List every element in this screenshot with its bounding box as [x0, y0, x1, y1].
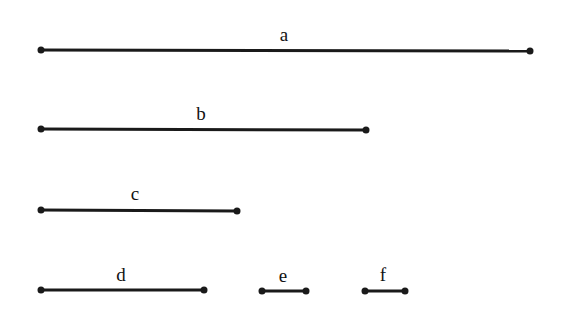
segment-a: a — [38, 24, 534, 55]
segment-c-label: c — [131, 183, 139, 204]
segment-a-label: a — [280, 24, 289, 45]
segment-b-label: b — [196, 103, 206, 124]
segment-f-label: f — [380, 264, 387, 285]
segment-b: b — [38, 103, 370, 134]
segment-c: c — [38, 183, 241, 215]
segment-e-label: e — [279, 265, 287, 286]
segment-f-start-point — [362, 288, 369, 295]
segment-c-end-point — [234, 208, 241, 215]
segment-e-start-point — [259, 288, 266, 295]
line-segments-diagram: a b c d e f — [0, 0, 564, 324]
segment-d-start-point — [38, 287, 45, 294]
segment-e: e — [259, 265, 310, 295]
segment-d-end-point — [201, 287, 208, 294]
segment-f: f — [362, 264, 409, 295]
segment-d-label: d — [116, 264, 126, 285]
segment-f-end-point — [402, 288, 409, 295]
segment-c-start-point — [38, 207, 45, 214]
segment-b-end-point — [363, 127, 370, 134]
segment-b-line — [41, 129, 366, 130]
segment-a-end-point — [527, 48, 534, 55]
segment-e-end-point — [303, 288, 310, 295]
segment-d: d — [38, 264, 208, 294]
segment-c-line — [41, 210, 237, 211]
segment-a-line — [41, 50, 530, 51]
segment-b-start-point — [38, 126, 45, 133]
segment-a-start-point — [38, 47, 45, 54]
